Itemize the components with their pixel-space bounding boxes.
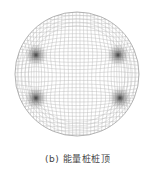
mesh-refinement-spot xyxy=(107,44,129,66)
finite-element-mesh xyxy=(11,8,143,140)
mesh-ring xyxy=(25,22,129,126)
mesh-grid-lines xyxy=(11,8,143,140)
circular-mesh-diagram xyxy=(0,0,155,145)
mesh-refinement-spot xyxy=(109,87,131,109)
figure-caption: (b) 能量桩桩顶 xyxy=(0,152,155,165)
mesh-refinement-spot xyxy=(25,87,47,109)
mesh-refinement-spot xyxy=(25,44,47,66)
